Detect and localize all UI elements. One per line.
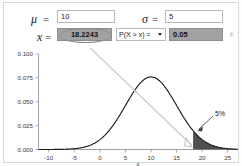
sigma-input[interactable]: 5 [165,10,223,23]
y-tick-label: 0.000 [18,146,34,153]
y-axis-ticks [36,54,39,150]
mu-equals-sign: = [43,14,49,25]
y-axis-tick-labels: 0.000 0.025 0.050 0.075 0.100 [18,50,34,153]
x-value-leader-arrow [84,48,192,147]
probability-value-input[interactable]: 0.05 [169,28,223,41]
x-symbol-label: x [37,31,42,43]
parameter-control-panel: μ = 10 σ = 5 x = 18.2243 P(X > x) = 0.05… [0,0,242,48]
x-tick-label: 25 [224,154,231,161]
x-tick-label: 5 [124,154,128,161]
x-axis-title: x [136,160,140,166]
x-tick-label: -5 [72,154,78,161]
normal-distribution-calculator: μ = 10 σ = 5 x = 18.2243 P(X > x) = 0.05… [0,0,242,166]
x-tick-label: -10 [44,154,54,161]
tail-percentage-label: 5% [215,110,225,117]
y-tick-label: 0.100 [18,50,34,57]
x-tick-label: 10 [148,154,155,161]
x-tick-label: 20 [199,154,206,161]
mu-symbol-label: μ [31,13,37,25]
normal-curve-chart: 0.000 0.025 0.050 0.075 0.100 -10 -5 [0,48,242,166]
x-tick-label: 15 [173,154,180,161]
probability-type-label: P(X > x) = [119,31,158,38]
y-tick-label: 0.025 [18,122,34,129]
y-tick-label: 0.075 [18,74,34,81]
x-axis-ticks [49,150,228,153]
chevron-down-icon [158,33,162,36]
mu-input[interactable]: 10 [57,10,115,23]
callout-arrowhead [198,127,204,132]
chart-svg: 0.000 0.025 0.050 0.075 0.100 -10 -5 [0,48,242,166]
y-tick-label: 0.050 [18,98,34,105]
cursor-marker-icon: ♁ [228,29,235,40]
x-equals-sign: = [45,32,51,43]
probability-type-dropdown[interactable]: P(X > x) = [116,28,166,41]
tail-percentage-callout: 5% [198,110,226,132]
normal-density-curve [39,77,239,150]
sigma-symbol-label: σ [142,13,148,25]
sigma-equals-sign: = [152,14,158,25]
x-tick-label: 0 [98,154,102,161]
x-value-input[interactable]: 18.2243 [57,28,112,41]
